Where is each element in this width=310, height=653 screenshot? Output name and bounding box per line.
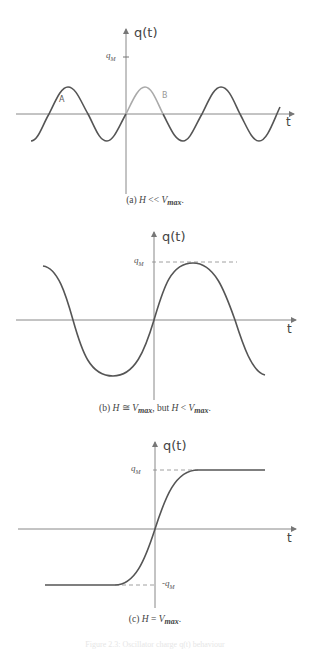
y-axis-label: q(t) xyxy=(163,438,187,453)
y-axis-label: q(t) xyxy=(134,25,158,40)
figure-footer-caption: Figure 2.3: Oscillator charge q(t) behav… xyxy=(0,640,310,649)
y-axis-label: q(t) xyxy=(162,229,186,244)
caption-b: (b) H ≅ Vmax, but H < Vmax. xyxy=(0,402,310,413)
caption-a: (a) H << Vmax. xyxy=(0,195,310,205)
qm-label: qM xyxy=(131,463,141,475)
panel-b xyxy=(16,232,296,400)
panel-a xyxy=(16,29,294,194)
neg-qm-label: -qM xyxy=(162,578,175,590)
figure-canvas xyxy=(0,0,310,653)
x-axis-label: t xyxy=(287,322,292,336)
qm-label: qM xyxy=(106,50,116,62)
x-axis-label: t xyxy=(287,531,292,545)
caption-c: (c) H = Vmax. xyxy=(0,614,310,624)
x-axis-label: t xyxy=(286,115,291,129)
qm-label: qM xyxy=(134,255,144,267)
curve-label-a: A xyxy=(59,95,64,104)
panel-c xyxy=(18,442,296,608)
curve-b xyxy=(126,87,163,114)
curve-label-b: B xyxy=(162,91,168,100)
